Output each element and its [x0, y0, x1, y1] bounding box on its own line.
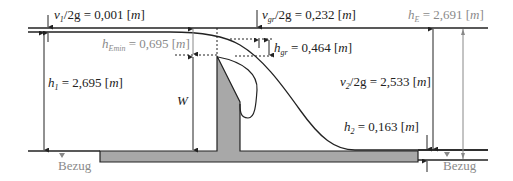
hE-dimension	[461, 29, 465, 159]
label-h1: h1 = 2,695 [m]	[48, 75, 123, 92]
water-level-marker-right	[444, 152, 450, 157]
weir-flow-diagram: v1/2g = 0,001 [m] hEmin = 0,695 [m] h1 =…	[0, 0, 513, 181]
label-v1: v1/2g = 0,001 [m]	[54, 7, 145, 24]
label-bezug-right: Bezug	[443, 158, 477, 173]
label-hgr: hgr = 0,464 [m]	[274, 40, 352, 57]
upstream-water-surface	[28, 32, 488, 150]
label-hEmin: hEmin = 0,695 [m]	[102, 36, 190, 53]
weir-structure	[100, 56, 418, 162]
label-hE: hE = 2,691 [m]	[408, 7, 484, 24]
label-h2: h2 = 0,163 [m]	[344, 119, 419, 136]
label-vgr: vgr/2g = 0,232 [m]	[262, 7, 356, 24]
label-v2: v2/2g = 2,533 [m]	[340, 74, 431, 91]
label-bezug-left: Bezug	[58, 158, 92, 173]
label-W: W	[177, 93, 189, 108]
